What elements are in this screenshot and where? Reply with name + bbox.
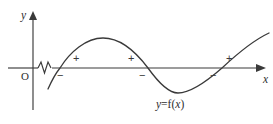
origin-label: O (21, 71, 29, 82)
x-axis-label: x (263, 74, 268, 86)
function-label: y=f(x) (156, 99, 184, 111)
sign-plus-3: + (226, 53, 232, 64)
function-curve (48, 33, 269, 93)
sign-minus-2: − (139, 70, 145, 81)
x-axis-arrow-icon (256, 64, 266, 72)
axis-break-zigzag-icon (38, 62, 51, 73)
sign-plus-2: + (128, 53, 134, 64)
function-graph-figure: y x O − + + − − + y=f(x) (0, 0, 273, 124)
sign-minus-1: − (57, 70, 63, 81)
y-axis-label: y (21, 10, 26, 22)
sign-minus-3: − (210, 70, 216, 81)
y-axis-arrow-icon (29, 11, 37, 20)
function-label-rparen: ) (180, 98, 184, 110)
sign-plus-1: + (73, 53, 79, 64)
